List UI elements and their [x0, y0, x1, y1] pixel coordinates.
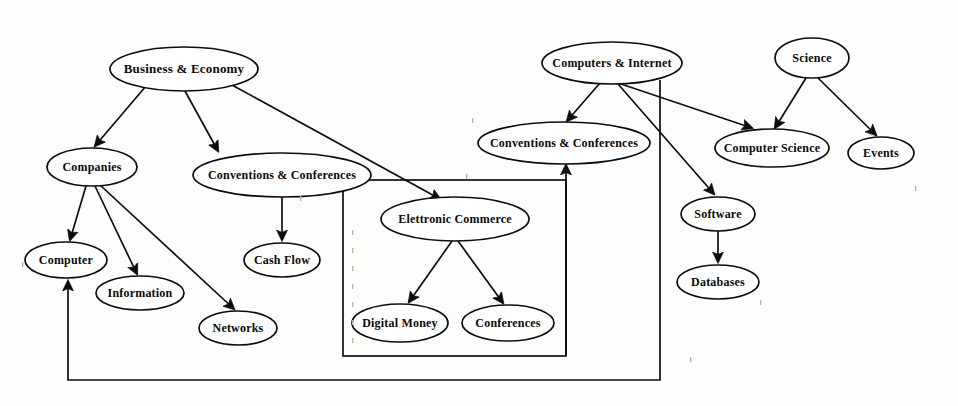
node-label: Elettronic Commerce	[398, 212, 512, 226]
edge-science-to-events	[818, 78, 876, 135]
node-companies[interactable]: Companies	[47, 148, 137, 186]
node-conventions-right[interactable]: Conventions & Conferences	[478, 122, 650, 164]
node-electronic-commerce[interactable]: Elettronic Commerce	[381, 197, 529, 241]
node-databases[interactable]: Databases	[677, 265, 759, 299]
node-label: Business & Economy	[124, 61, 245, 76]
diagram-svg: Business & EconomyCompaniesConventions &…	[0, 0, 958, 406]
node-label: Digital Money	[362, 316, 438, 330]
node-label: Computers & Internet	[552, 56, 671, 70]
node-label: Databases	[691, 275, 745, 289]
scan-speck	[22, 262, 23, 267]
scan-speck	[915, 186, 916, 191]
scan-speck	[352, 248, 353, 253]
node-label: Information	[108, 286, 173, 300]
edge-companies-to-computer	[70, 186, 86, 240]
node-networks[interactable]: Networks	[199, 311, 277, 345]
node-label: Software	[694, 207, 742, 221]
node-conventions-left[interactable]: Conventions & Conferences	[193, 153, 371, 197]
edge-electronic-commerce-to-digital-money	[409, 241, 452, 302]
scan-speck	[760, 300, 761, 305]
node-label: Events	[863, 146, 899, 160]
node-computer-science[interactable]: Computer Science	[715, 129, 829, 167]
node-science[interactable]: Science	[775, 38, 849, 78]
scan-speck	[300, 196, 301, 201]
scan-speck	[352, 266, 353, 271]
scan-speck	[352, 284, 353, 289]
node-layer: Business & EconomyCompaniesConventions &…	[25, 38, 914, 345]
node-label: Companies	[62, 160, 121, 174]
edge-electronic-commerce-to-conferences	[458, 241, 503, 303]
node-software[interactable]: Software	[681, 197, 755, 231]
scan-speck	[352, 320, 353, 325]
node-label: Cash Flow	[254, 253, 310, 267]
node-cash-flow[interactable]: Cash Flow	[244, 243, 320, 277]
node-label: Conferences	[475, 316, 540, 330]
node-label: Computer	[39, 253, 94, 267]
scan-speck	[472, 118, 473, 123]
node-digital-money[interactable]: Digital Money	[352, 304, 448, 342]
node-information[interactable]: Information	[96, 276, 184, 310]
scan-speck	[352, 230, 353, 235]
scan-speck	[352, 338, 353, 343]
node-label: Conventions & Conferences	[490, 136, 638, 150]
edge-computers-internet-to-computer-science	[618, 83, 752, 128]
scan-speck	[466, 174, 467, 179]
node-computer[interactable]: Computer	[25, 242, 107, 278]
edge-science-to-computer-science	[775, 78, 806, 128]
scan-speck	[690, 357, 691, 362]
node-label: Computer Science	[724, 141, 821, 155]
edge-computers-internet-to-conventions-right	[567, 83, 600, 121]
node-conferences[interactable]: Conferences	[462, 305, 554, 341]
node-business-economy[interactable]: Business & Economy	[110, 47, 258, 91]
diagram-canvas: Business & EconomyCompaniesConventions &…	[0, 0, 958, 406]
node-label: Science	[792, 51, 832, 65]
node-label: Networks	[213, 321, 264, 335]
node-computers-internet[interactable]: Computers & Internet	[542, 42, 682, 84]
edge-business-economy-to-conventions-left	[185, 91, 218, 151]
node-label: Conventions & Conferences	[208, 168, 356, 182]
node-events[interactable]: Events	[848, 137, 914, 169]
edge-business-economy-to-companies	[95, 86, 146, 146]
scan-speck	[352, 302, 353, 307]
